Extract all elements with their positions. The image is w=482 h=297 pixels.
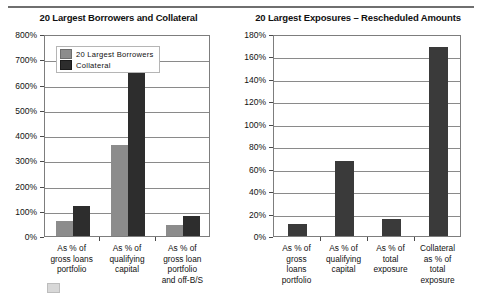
- y-axis-tick-label: 100%: [6, 207, 37, 217]
- y-axis-tick-label: 800%: [6, 30, 37, 40]
- plot-area: [273, 35, 461, 237]
- legend-swatch-icon: [60, 49, 72, 59]
- y-axis-tick: [269, 192, 273, 193]
- x-axis-category-label: As % of gross loans portfolio: [273, 243, 320, 285]
- chart-title-left: 20 Largest Borrowers and Collateral: [6, 12, 231, 23]
- x-axis-category-label: As % of qualifying capital: [320, 243, 367, 275]
- y-axis-tick: [40, 187, 44, 188]
- y-axis-tick: [269, 147, 273, 148]
- legend-swatch-icon: [60, 60, 72, 70]
- y-axis-tick: [40, 212, 44, 213]
- gridline: [45, 87, 209, 88]
- legend-item[interactable]: 20 Largest Borrowers: [60, 49, 154, 59]
- y-axis-tick-label: 0%: [6, 232, 37, 242]
- x-axis-tick: [155, 237, 156, 241]
- x-axis-category-label: As % of gross loan portfolio and off-B/S: [155, 243, 210, 285]
- x-axis-tick: [99, 237, 100, 241]
- legend-item-label: Collateral: [76, 61, 111, 70]
- bar: [128, 59, 145, 236]
- legend-item[interactable]: Collateral: [60, 60, 154, 70]
- y-axis-tick: [40, 161, 44, 162]
- y-axis-tick: [269, 125, 273, 126]
- y-axis-tick: [269, 237, 273, 238]
- y-axis-tick: [269, 35, 273, 36]
- x-axis-category-label: Collateral as % of total exposure: [414, 243, 461, 285]
- y-axis-tick-label: 300%: [6, 156, 37, 166]
- y-axis-tick: [40, 86, 44, 87]
- bar: [288, 224, 308, 236]
- y-axis-tick-label: 400%: [6, 131, 37, 141]
- chart-title-right: 20 Largest Exposures – Rescheduled Amoun…: [238, 12, 478, 23]
- x-axis-category-label: As % of total exposure: [367, 243, 414, 275]
- y-axis-tick-label: 80%: [238, 142, 266, 152]
- bar: [335, 161, 355, 236]
- x-axis-tick: [320, 237, 321, 241]
- bar: [382, 219, 402, 236]
- bar: [183, 216, 200, 236]
- y-axis-tick: [269, 57, 273, 58]
- gridline: [45, 112, 209, 113]
- bar: [166, 225, 183, 236]
- chart-panel-left: 20 Largest Borrowers and Collateral 0%10…: [6, 12, 231, 297]
- y-axis-tick: [40, 35, 44, 36]
- y-axis-tick-label: 160%: [238, 52, 266, 62]
- gridline: [45, 137, 209, 138]
- y-axis-tick: [269, 170, 273, 171]
- y-axis-tick: [269, 215, 273, 216]
- y-axis-tick-label: 200%: [6, 182, 37, 192]
- y-axis-tick: [40, 111, 44, 112]
- chart-panel-right: 20 Largest Exposures – Rescheduled Amoun…: [238, 12, 478, 297]
- y-axis-tick-label: 20%: [238, 210, 266, 220]
- y-axis-tick-label: 600%: [6, 81, 37, 91]
- x-axis-category-label: As % of qualifying capital: [99, 243, 154, 275]
- y-axis-tick-label: 180%: [238, 30, 266, 40]
- bar: [56, 221, 73, 236]
- x-axis-tick: [367, 237, 368, 241]
- y-axis-tick-label: 500%: [6, 106, 37, 116]
- legend-item-label: 20 Largest Borrowers: [76, 50, 154, 59]
- y-axis-tick-label: 40%: [238, 187, 266, 197]
- y-axis-tick-label: 700%: [6, 55, 37, 65]
- x-axis-category-label: As % of gross loans portfolio: [44, 243, 99, 275]
- y-axis-tick: [40, 237, 44, 238]
- header-divider: [8, 6, 474, 8]
- y-axis-tick: [40, 60, 44, 61]
- y-axis-tick: [40, 136, 44, 137]
- y-axis-tick-label: 120%: [238, 97, 266, 107]
- bar: [73, 206, 90, 236]
- x-axis-tick: [414, 237, 415, 241]
- y-axis-tick: [269, 102, 273, 103]
- y-axis-tick-label: 0%: [238, 232, 266, 242]
- chart-legend: 20 Largest BorrowersCollateral: [56, 46, 160, 73]
- bar: [111, 145, 128, 236]
- y-axis-tick-label: 100%: [238, 120, 266, 130]
- y-axis-tick-label: 60%: [238, 165, 266, 175]
- y-axis-tick: [269, 80, 273, 81]
- y-axis-tick-label: 140%: [238, 75, 266, 85]
- figure-footer-mark: [47, 283, 60, 293]
- bar: [429, 47, 449, 236]
